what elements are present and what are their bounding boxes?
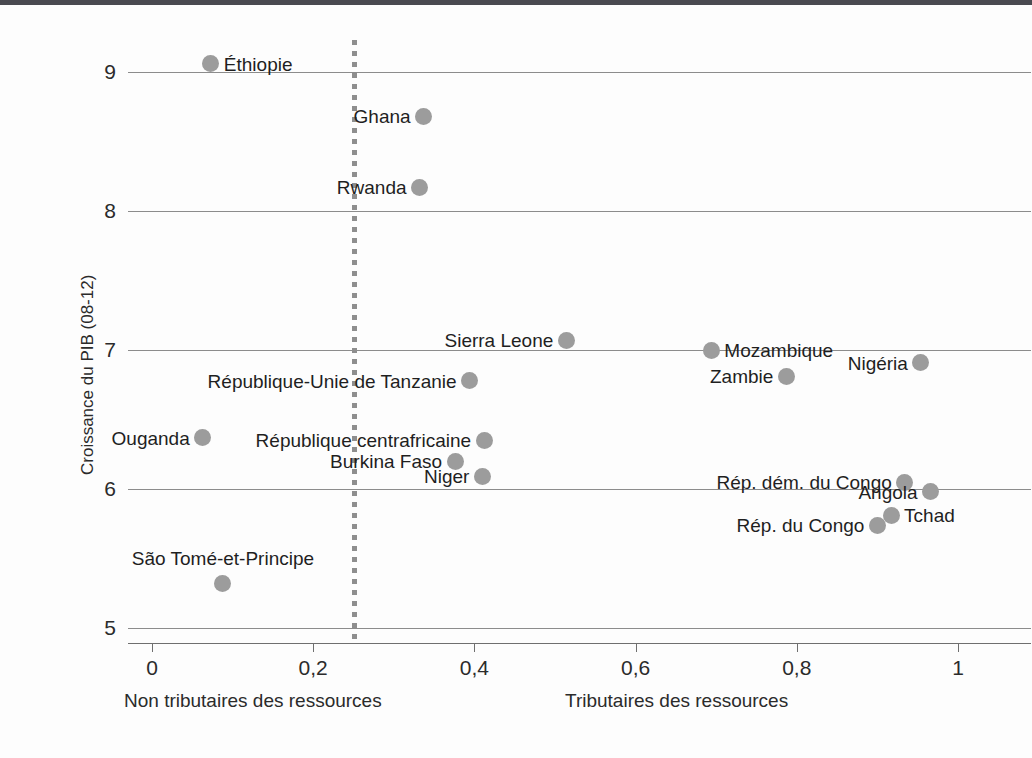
data-point[interactable]	[558, 332, 575, 349]
x-axis-tick	[797, 643, 798, 652]
data-point[interactable]	[778, 368, 795, 385]
data-point-label: Zambie	[710, 367, 773, 386]
data-point-label: Tchad	[904, 506, 955, 525]
data-point[interactable]	[474, 468, 491, 485]
x-tick-label: 1	[923, 657, 993, 678]
y-gridline	[128, 211, 1031, 212]
x-axis-tick	[474, 643, 475, 652]
x-group-label-resource: Tributaires des ressources	[565, 690, 788, 712]
data-point-label: Angola	[858, 482, 917, 501]
x-axis-tick	[152, 643, 153, 652]
y-gridline	[128, 350, 1031, 351]
y-tick-label: 6	[76, 478, 116, 499]
data-point[interactable]	[703, 342, 720, 359]
data-point-label: Niger	[424, 467, 469, 486]
data-point[interactable]	[922, 483, 939, 500]
data-point-label: République centrafricaine	[256, 431, 471, 450]
x-axis-tick	[313, 643, 314, 652]
data-point-label: Nigéria	[848, 353, 908, 372]
data-point[interactable]	[214, 575, 231, 592]
y-tick-label: 8	[76, 200, 116, 221]
data-point-label: Ghana	[354, 107, 411, 126]
scatter-plot-area: 5678900,20,40,60,81ÉthiopieGhanaRwandaSi…	[0, 0, 1032, 758]
y-tick-label: 5	[76, 617, 116, 638]
data-point[interactable]	[415, 108, 432, 125]
data-point-label: São Tomé-et-Principe	[132, 548, 314, 567]
x-tick-label: 0,6	[601, 657, 671, 678]
x-tick-label: 0,4	[439, 657, 509, 678]
data-point[interactable]	[869, 517, 886, 534]
data-point-label: Éthiopie	[224, 54, 293, 73]
x-axis-tick	[958, 643, 959, 652]
data-point-label: Sierra Leone	[444, 331, 553, 350]
data-point-label: République-Unie de Tanzanie	[208, 371, 457, 390]
x-group-label-non-resource: Non tributaires des ressources	[124, 690, 382, 712]
data-point[interactable]	[476, 432, 493, 449]
x-axis-tick	[636, 643, 637, 652]
data-point[interactable]	[411, 179, 428, 196]
data-point-label: Mozambique	[724, 341, 833, 360]
data-point-label: Rwanda	[337, 178, 407, 197]
x-axis-line	[128, 643, 1031, 644]
resource-threshold-line	[352, 40, 357, 643]
data-point-label: Rép. du Congo	[737, 516, 865, 535]
data-point[interactable]	[194, 429, 211, 446]
x-tick-label: 0	[117, 657, 187, 678]
chart-figure: 5678900,20,40,60,81ÉthiopieGhanaRwandaSi…	[0, 0, 1032, 758]
data-point[interactable]	[912, 354, 929, 371]
x-tick-label: 0,2	[278, 657, 348, 678]
data-point[interactable]	[202, 55, 219, 72]
y-axis-title: Croissance du PIB (08-12)	[78, 275, 98, 475]
y-gridline	[128, 628, 1031, 629]
y-tick-label: 9	[76, 61, 116, 82]
data-point[interactable]	[461, 372, 478, 389]
data-point-label: Ouganda	[112, 428, 190, 447]
x-tick-label: 0,8	[762, 657, 832, 678]
